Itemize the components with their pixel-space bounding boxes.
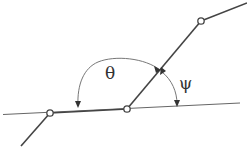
segment-b-c	[127, 21, 201, 109]
psi-arc	[162, 72, 177, 104]
psi-arrow-up-icon	[160, 67, 166, 75]
node-a	[47, 110, 53, 116]
segment-a-b	[50, 109, 127, 113]
psi-label: ψ	[179, 73, 192, 93]
theta-label: θ	[105, 63, 115, 83]
theta-arrow-left-icon	[75, 101, 81, 108]
angle-diagram: θ ψ	[0, 0, 247, 152]
node-b	[124, 106, 130, 112]
theta-arc	[78, 58, 160, 106]
segment-lower-left	[21, 113, 50, 146]
node-c	[198, 18, 204, 24]
diagram-canvas: θ ψ	[0, 0, 247, 152]
theta-arrow-right-icon	[154, 66, 161, 73]
segment-upper-right	[201, 3, 247, 21]
